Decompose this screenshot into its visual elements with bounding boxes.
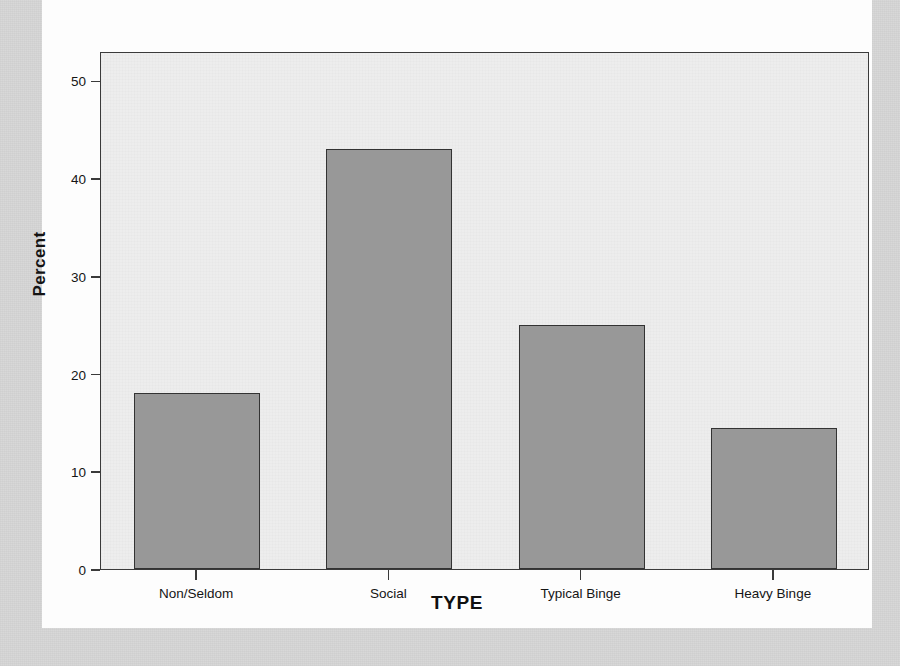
y-axis-tick-label: 40 xyxy=(48,172,86,187)
x-axis-tick xyxy=(195,570,197,580)
bar-social[interactable] xyxy=(326,149,452,569)
y-axis-tick-label: 0 xyxy=(48,563,86,578)
y-axis-tick xyxy=(91,178,100,180)
x-axis-tick xyxy=(388,570,390,580)
y-axis-tick xyxy=(91,276,100,278)
bar-heavy-binge[interactable] xyxy=(711,428,837,569)
y-axis-tick-label: 30 xyxy=(48,269,86,284)
y-axis-title: Percent xyxy=(30,231,50,296)
x-axis-tick xyxy=(772,570,774,580)
x-axis-tick xyxy=(580,570,582,580)
y-axis-tick xyxy=(91,569,100,571)
y-axis-tick-label: 10 xyxy=(48,465,86,480)
y-axis-tick-label: 50 xyxy=(48,74,86,89)
y-axis-tick-label: 20 xyxy=(48,367,86,382)
bar-typical-binge[interactable] xyxy=(519,325,645,569)
plot-area xyxy=(100,52,869,570)
y-axis-tick xyxy=(91,471,100,473)
bar-non-seldom[interactable] xyxy=(134,393,260,569)
chart-card: TYPE Percent 01020304050 Non/SeldomSocia… xyxy=(42,0,872,628)
x-axis-title: TYPE xyxy=(42,592,872,614)
y-axis-tick xyxy=(91,81,100,83)
y-axis-tick xyxy=(91,374,100,376)
